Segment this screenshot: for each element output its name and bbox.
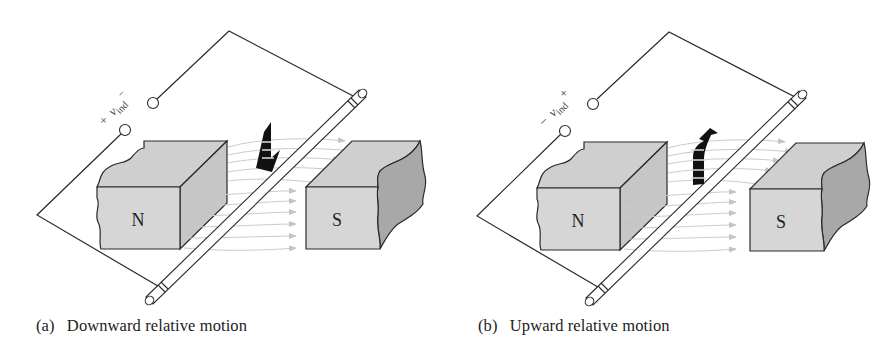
motion-arrow-down-icon [256,122,280,172]
magnet-label-s: S [776,212,786,232]
magnet-south [750,143,870,251]
panel-a-downward-motion: + vind− N [0,0,447,359]
caption-b: (b) Upward relative motion [478,316,670,336]
caption-a: (a) Downward relative motion [36,316,247,336]
caption-text: Downward relative motion [67,316,247,335]
caption-tag: (a) [36,316,55,335]
diagram-b: − vind+ N [440,0,895,359]
diagram-a: + vind− N [0,0,447,359]
svg-text:+ vind−: + vind− [92,87,135,130]
panel-b-upward-motion: − vind+ N [440,0,895,359]
magnet-label-s: S [332,210,342,230]
caption-text: Upward relative motion [510,316,670,335]
terminal-upper [588,99,599,110]
svg-text:− vind+: − vind+ [532,86,577,131]
terminal-lower [560,126,571,137]
voltage-label: + vind− [92,87,135,130]
magnet-label-n: N [132,210,145,230]
magnet-south [306,141,426,249]
terminal-upper [148,98,159,109]
magnet-label-n: N [572,211,585,231]
terminal-lower [120,125,131,136]
caption-tag: (b) [478,316,498,335]
voltage-label: − vind+ [532,86,577,131]
